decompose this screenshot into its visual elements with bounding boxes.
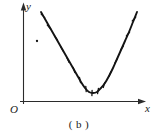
x-axis-label: x bbox=[145, 103, 150, 114]
x-axis bbox=[20, 99, 146, 104]
figure-container: y x O ( b ) bbox=[0, 0, 158, 139]
data-point-tick bbox=[79, 77, 80, 82]
outlier-data-point bbox=[36, 40, 38, 42]
origin-label: O bbox=[10, 104, 18, 115]
data-point-tick bbox=[103, 83, 104, 88]
y-axis bbox=[21, 3, 26, 105]
fitted-curve bbox=[41, 12, 137, 93]
figure-caption: ( b ) bbox=[0, 118, 158, 130]
y-axis-label: y bbox=[26, 1, 31, 12]
data-point-markers bbox=[41, 14, 136, 95]
data-point-tick bbox=[73, 68, 75, 73]
data-point-tick bbox=[98, 88, 99, 93]
outlier-point-markers bbox=[36, 40, 38, 42]
